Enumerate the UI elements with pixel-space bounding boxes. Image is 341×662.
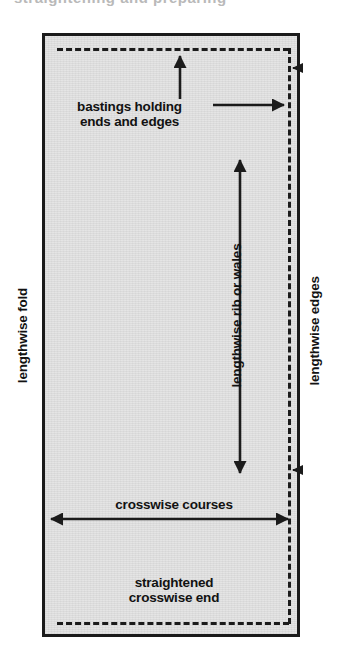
label-lengthwise-edges: lengthwise edges bbox=[307, 286, 322, 386]
diagram-canvas: straightening and preparing bbox=[0, 0, 341, 662]
label-bastings: bastings holding ends and edges bbox=[62, 99, 197, 129]
bottom-basting-dashed-line bbox=[57, 622, 289, 625]
cropped-caption-text: straightening and preparing bbox=[14, 0, 227, 6]
label-lengthwise-rib-or-wales: lengthwise rib or wales bbox=[229, 248, 244, 388]
label-lengthwise-fold: lengthwise fold bbox=[15, 286, 30, 386]
cropped-caption-sliver: straightening and preparing bbox=[0, 0, 341, 14]
label-straightened-crosswise-end: straightened crosswise end bbox=[94, 575, 254, 605]
top-basting-dashed-line bbox=[57, 48, 289, 51]
right-edge-basting-dashed-line bbox=[288, 48, 291, 624]
label-crosswise-courses: crosswise courses bbox=[94, 497, 254, 512]
